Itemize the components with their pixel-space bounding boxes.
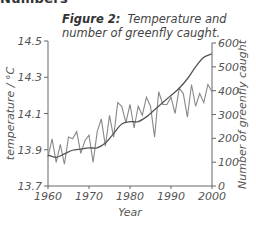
right-axis-title: Number of greenfly caught: [236, 39, 249, 189]
x-axis-title: Year: [118, 206, 143, 219]
left-tick-label: 14.1: [18, 108, 43, 121]
x-tick-label: 1960: [34, 190, 62, 203]
left-tick-label: 14.3: [18, 71, 43, 84]
left-tick-label: 13.9: [18, 144, 43, 157]
left-tick-label: 14.5: [18, 35, 43, 48]
chart-plot: 13.713.914.114.314.501002003004005006001…: [0, 0, 256, 226]
x-tick-label: 2000: [198, 190, 226, 203]
temperature-line: [48, 85, 212, 165]
left-axis-title: temperature / °C: [4, 67, 17, 161]
x-tick-label: 1980: [116, 190, 144, 203]
x-tick-label: 1990: [157, 190, 185, 203]
x-tick-label: 1970: [75, 190, 103, 203]
